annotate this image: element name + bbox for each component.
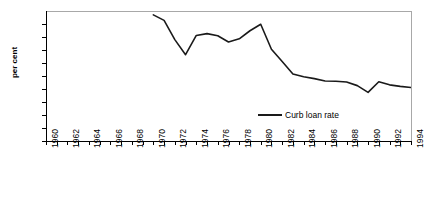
x-axis-tick-mark: [196, 141, 197, 145]
x-axis-tick-mark: [132, 141, 133, 145]
x-axis-tick-mark: [239, 141, 240, 145]
x-axis-tick-mark: [347, 141, 348, 145]
x-axis-tick-mark: [411, 141, 412, 145]
x-axis-tick-mark: [67, 141, 68, 145]
x-axis-tick-mark: [175, 141, 176, 145]
series-curb-loan-rate: [46, 11, 411, 141]
x-axis-tick-mark: [110, 141, 111, 145]
x-axis-tick-mark: [304, 141, 305, 145]
legend: Curb loan rate: [258, 110, 339, 120]
x-axis-tick-mark: [390, 141, 391, 145]
x-axis-tick-mark: [153, 141, 154, 145]
x-axis-tick-mark: [89, 141, 90, 145]
x-axis-tick-mark: [218, 141, 219, 145]
series-line-curb-loan-rate: [153, 15, 411, 92]
legend-swatch-curb-loan-rate: [258, 114, 282, 116]
x-axis-tick-mark: [261, 141, 262, 145]
x-axis-tick-mark: [325, 141, 326, 145]
x-axis-tick-mark: [282, 141, 283, 145]
curb-loan-rate-line-chart: per cent 05101520253035404550 1960196219…: [0, 0, 433, 198]
x-axis-tick-mark: [368, 141, 369, 145]
x-axis-tick-label: 1994: [415, 129, 425, 148]
plot-frame-right: [411, 11, 412, 141]
y-axis-title: per cent: [10, 28, 19, 98]
legend-label-curb-loan-rate: Curb loan rate: [285, 110, 339, 120]
x-axis-tick-mark: [46, 141, 47, 145]
